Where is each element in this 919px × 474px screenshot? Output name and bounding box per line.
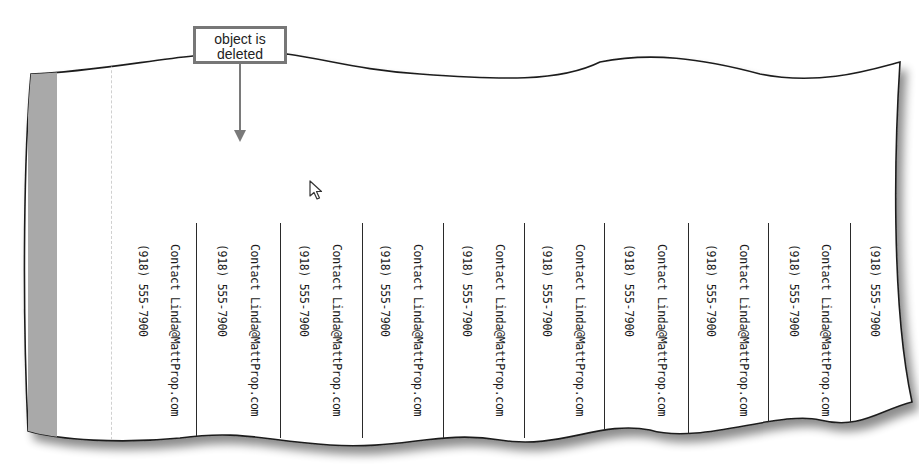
tear-off-contact: Contact Linda@MattProp.com	[330, 244, 344, 416]
mouse-pointer-icon	[309, 180, 325, 202]
tear-off-separator	[768, 223, 769, 438]
tear-off-separator	[362, 223, 363, 438]
tear-off-separator	[443, 223, 444, 438]
tear-off-phone: (918) 555-7900	[136, 244, 150, 337]
tear-off-phone: (918) 555-7900	[540, 244, 554, 337]
tear-off-separator	[524, 223, 525, 438]
tear-off-phone: (918) 555-7900	[297, 244, 311, 337]
tear-off-separator	[604, 223, 605, 438]
tear-off-phone: (918) 555-7900	[787, 244, 801, 337]
layout-guide-line	[111, 20, 112, 460]
tear-off-phone: (918) 555-7900	[378, 244, 392, 337]
tear-off-separator	[688, 223, 689, 438]
tear-off-contact: Contact Linda@MattProp.com	[168, 244, 182, 416]
tear-off-separator	[280, 223, 281, 438]
tear-off-phone: (918) 555-7900	[215, 244, 229, 337]
tear-off-contact: Contact Linda@MattProp.com	[411, 244, 425, 416]
down-arrow-icon	[239, 64, 241, 132]
tear-off-contact: Contact Linda@MattProp.com	[655, 244, 669, 416]
tear-off-separator	[196, 223, 197, 438]
callout-line-2: deleted	[196, 47, 284, 62]
tear-off-contact: Contact Linda@MattProp.com	[737, 244, 751, 416]
tear-off-contact: Contact Linda@MattProp.com	[573, 244, 587, 416]
tear-off-phone: (918) 555-7900	[704, 244, 718, 337]
tear-off-phone: (918) 555-7900	[460, 244, 474, 337]
tear-off-contact: Contact Linda@MattProp.com	[819, 244, 833, 416]
tear-off-contact: Contact Linda@MattProp.com	[493, 244, 507, 416]
tear-off-phone: (918) 555-7900	[622, 244, 636, 337]
page-margin-strip	[28, 20, 57, 460]
arrow-head-icon	[234, 130, 246, 142]
callout-line-1: object is	[196, 32, 284, 47]
tear-off-separator	[850, 223, 851, 438]
tear-off-contact: Contact Linda@MattProp.com	[248, 244, 262, 416]
callout-box: object is deleted	[193, 26, 287, 64]
tear-off-phone: (918) 555-7900	[868, 244, 882, 337]
